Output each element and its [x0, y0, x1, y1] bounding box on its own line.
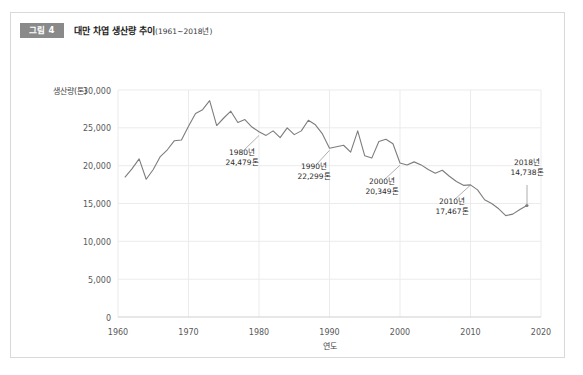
annotation-2000-value: 20,349톤 [365, 187, 398, 196]
x-tick-1960: 1960 [108, 328, 128, 337]
x-tick-2010: 2010 [460, 328, 480, 337]
annotation-1990: 1990년 22,299톤 [297, 161, 330, 181]
annotation-1980: 1980년 24,479톤 [225, 147, 258, 167]
annotation-1980-year: 1980년 [229, 147, 255, 157]
x-tick-2020: 2020 [531, 328, 551, 337]
x-tick-1990: 1990 [319, 328, 339, 337]
annotation-1990-value: 22,299톤 [297, 172, 330, 181]
line-chart: 30,000 25,000 20,000 15,000 10,000 5,000… [11, 55, 566, 357]
figure-number-badge: 그림 4 [20, 23, 64, 38]
annotation-1980-value: 24,479톤 [225, 158, 258, 167]
annotation-2010-year: 2010년 [439, 196, 465, 206]
x-tick-1980: 1980 [249, 328, 269, 337]
y-tick-20000: 20,000 [83, 162, 111, 171]
y-tick-15000: 15,000 [83, 200, 111, 209]
y-tick-10000: 10,000 [83, 238, 111, 247]
figure-title-range: (1961~2018년) [155, 27, 212, 36]
annotation-2000: 2000년 20,349톤 [365, 176, 398, 196]
y-tick-5000: 5,000 [88, 276, 111, 285]
y-axis-title: 생산량(톤) [53, 86, 87, 96]
y-tick-0: 0 [106, 314, 111, 323]
y-tick-25000: 25,000 [83, 124, 111, 133]
figure-header: 그림 4 대만 차엽 생산량 추이(1961~2018년) [20, 22, 212, 39]
annotation-1990-year: 1990년 [301, 161, 327, 171]
figure-title-main: 대만 차엽 생산량 추이 [74, 26, 155, 36]
x-tick-1970: 1970 [178, 328, 198, 337]
annotation-2010-value: 17,467톤 [435, 207, 468, 216]
annotation-2000-year: 2000년 [369, 176, 395, 186]
x-axis-title: 연도 [323, 342, 337, 351]
annotation-2010: 2010년 17,467톤 [435, 196, 468, 216]
annotation-2018-value: 14,738톤 [510, 168, 543, 177]
annotation-2018-year: 2018년 [514, 157, 540, 167]
chart-plot-area: 30,000 25,000 20,000 15,000 10,000 5,000… [11, 55, 566, 357]
x-tick-2000: 2000 [390, 328, 410, 337]
figure-title: 대만 차엽 생산량 추이(1961~2018년) [74, 24, 213, 37]
annotation-2018: 2018년 14,738톤 [510, 157, 543, 177]
series-line-tea-production [125, 101, 527, 216]
figure-card: 그림 4 대만 차엽 생산량 추이(1961~2018년) [10, 12, 565, 358]
